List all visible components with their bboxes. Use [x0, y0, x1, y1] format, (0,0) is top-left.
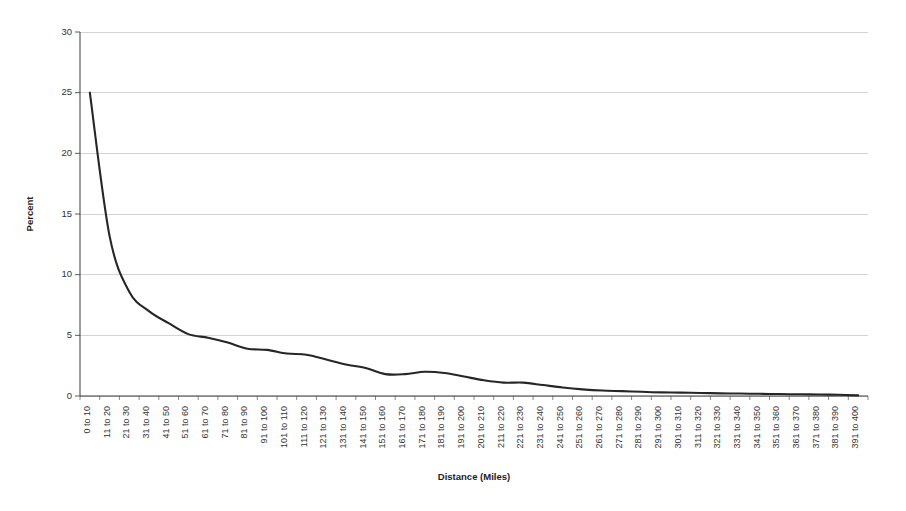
x-tick-label: 231 to 240 — [535, 406, 545, 449]
x-tick-label: 31 to 40 — [141, 406, 151, 439]
x-tick-label: 121 to 130 — [318, 406, 328, 449]
x-tick-label: 341 to 350 — [752, 406, 762, 449]
x-tick-label: 211 to 220 — [496, 406, 506, 448]
chart-background — [0, 0, 906, 511]
y-axis-title: Percent — [24, 196, 35, 232]
y-tick-label: 15 — [61, 208, 72, 219]
x-tick-label: 261 to 270 — [594, 406, 604, 449]
x-tick-label: 351 to 360 — [771, 406, 781, 449]
x-tick-label: 51 to 60 — [180, 406, 190, 439]
x-tick-label: 61 to 70 — [200, 406, 210, 439]
x-tick-label: 111 to 120 — [299, 406, 309, 447]
y-tick-label: 25 — [61, 86, 72, 97]
x-tick-label: 41 to 50 — [161, 406, 171, 439]
x-tick-label: 221 to 230 — [515, 406, 525, 449]
x-tick-label: 361 to 370 — [791, 406, 801, 449]
x-tick-label: 151 to 160 — [377, 406, 387, 449]
x-tick-label: 371 to 380 — [811, 406, 821, 449]
x-axis-ticks — [80, 396, 868, 400]
y-tick-label: 5 — [67, 329, 72, 340]
x-tick-label: 81 to 90 — [239, 406, 249, 439]
x-tick-label: 241 to 250 — [555, 406, 565, 449]
x-tick-label: 0 to 10 — [82, 406, 92, 434]
x-tick-label: 281 to 290 — [633, 406, 643, 449]
x-tick-label: 141 to 150 — [358, 406, 368, 449]
x-tick-label: 181 to 190 — [436, 406, 446, 449]
x-tick-label: 381 to 390 — [830, 406, 840, 449]
distance-percent-chart: 051015202530 0 to 1011 to 2021 to 3031 t… — [0, 0, 906, 511]
x-tick-label: 191 to 200 — [456, 406, 466, 449]
chart-canvas: 051015202530 0 to 1011 to 2021 to 3031 t… — [0, 0, 906, 511]
x-tick-label: 271 to 280 — [614, 406, 624, 449]
x-tick-label: 131 to 140 — [338, 406, 348, 449]
x-tick-label: 91 to 100 — [259, 406, 269, 444]
x-tick-label: 331 to 340 — [732, 406, 742, 449]
y-tick-label: 10 — [61, 268, 72, 279]
x-tick-label: 101 to 110 — [279, 406, 289, 448]
x-tick-label: 251 to 260 — [574, 406, 584, 449]
x-tick-label: 71 to 80 — [220, 406, 230, 439]
x-tick-label: 161 to 170 — [397, 406, 407, 449]
y-tick-label: 20 — [61, 147, 72, 158]
x-tick-label: 321 to 330 — [712, 406, 722, 449]
x-tick-label: 171 to 180 — [417, 406, 427, 449]
x-tick-label: 11 to 20 — [102, 406, 112, 438]
x-tick-label: 301 to 310 — [673, 406, 683, 449]
x-tick-label: 291 to 300 — [653, 406, 663, 449]
x-tick-label: 311 to 320 — [693, 406, 703, 448]
y-tick-label: 0 — [67, 390, 72, 401]
x-axis-title: Distance (Miles) — [438, 471, 510, 482]
x-tick-label: 391 to 400 — [850, 406, 860, 449]
x-tick-label: 201 to 210 — [476, 406, 486, 449]
x-tick-label: 21 to 30 — [121, 406, 131, 439]
y-tick-label: 30 — [61, 26, 72, 37]
